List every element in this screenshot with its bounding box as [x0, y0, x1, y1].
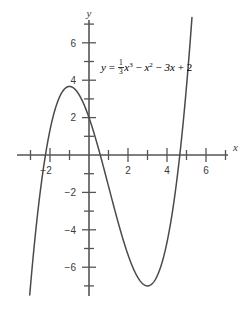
equation-term4: 2 [187, 61, 193, 73]
coordinate-plane: −2 2 4 6 6 4 2 −2 −4 −6 x y [0, 0, 245, 314]
y-tick-label-2: 2 [70, 112, 76, 123]
x-tick-label-4: 4 [164, 165, 170, 176]
equation-equals: = [109, 61, 115, 73]
equation-term1-exponent: 3 [129, 61, 133, 69]
y-tick-label--6: −6 [65, 262, 77, 273]
y-axis-label: y [86, 7, 92, 19]
equation-label: y = 1 3 x3 − x2 − 3x + 2 [101, 59, 192, 76]
y-tick-label--4: −4 [65, 225, 77, 236]
x-tick-label-2: 2 [125, 165, 131, 176]
equation-term2-exponent: 2 [149, 61, 153, 69]
equation-fraction-one-third: 1 3 [118, 59, 124, 76]
graph-figure: −2 2 4 6 6 4 2 −2 −4 −6 x y y = 1 3 x3 −… [0, 0, 245, 314]
x-tick-label-6: 6 [203, 165, 209, 176]
y-tick-label--2: −2 [65, 187, 77, 198]
y-tick-label-4: 4 [70, 75, 76, 86]
equation-operator-2: − [156, 61, 162, 73]
fraction-denominator: 3 [118, 68, 124, 76]
equation-lhs: y [101, 61, 106, 73]
equation-operator-1: − [136, 61, 142, 73]
equation-term3: 3x [165, 61, 175, 73]
equation-operator-3: + [178, 61, 184, 73]
x-axis-label: x [232, 141, 238, 153]
y-tick-label-6: 6 [70, 38, 76, 49]
